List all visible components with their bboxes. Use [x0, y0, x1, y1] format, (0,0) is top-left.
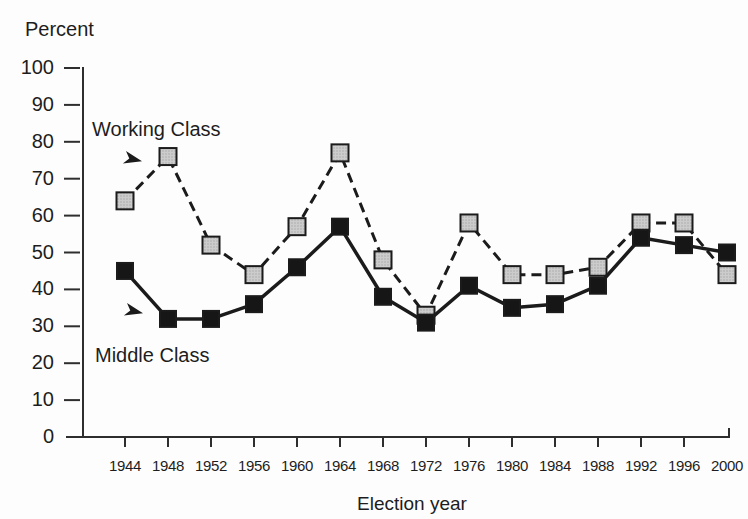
working-class-marker [203, 237, 220, 254]
x-axis-tick-label: 2000 [705, 457, 748, 474]
y-axis-title: Percent [25, 18, 94, 41]
x-axis-tick-label: 1960 [275, 457, 319, 474]
middle-class-arrow-icon [124, 303, 145, 320]
middle-class-marker [590, 278, 606, 294]
working-class-marker [375, 251, 392, 268]
working-class-marker [246, 266, 263, 283]
x-axis-tick-label: 1968 [361, 457, 405, 474]
middle-class-marker [676, 237, 692, 253]
middle-class-marker [246, 296, 262, 312]
x-axis-tick-label: 1952 [189, 457, 233, 474]
working-class-marker [332, 144, 349, 161]
y-axis-tick-label: 20 [4, 351, 54, 374]
y-axis-tick-label: 60 [4, 204, 54, 227]
middle-class-marker [719, 245, 735, 261]
x-axis-tick-label: 1996 [662, 457, 706, 474]
working-class-label: Working Class [92, 118, 221, 141]
y-axis-tick-label: 10 [4, 388, 54, 411]
y-axis-tick-label: 50 [4, 241, 54, 264]
middle-class-marker [160, 311, 176, 327]
y-axis-tick-label: 0 [4, 425, 54, 448]
y-axis-tick-label: 30 [4, 314, 54, 337]
x-axis-tick-label: 1944 [103, 457, 147, 474]
middle-class-marker [461, 278, 477, 294]
y-axis-tick-label: 70 [4, 167, 54, 190]
middle-class-marker [117, 263, 133, 279]
middle-class-marker [418, 315, 434, 331]
middle-class-marker [547, 296, 563, 312]
y-axis-tick-label: 90 [4, 93, 54, 116]
x-axis-tick-label: 1956 [232, 457, 276, 474]
middle-class-label: Middle Class [95, 344, 209, 367]
x-axis-tick-label: 1988 [576, 457, 620, 474]
middle-class-marker [504, 300, 520, 316]
chart-plot [0, 0, 748, 519]
x-axis-tick-label: 1992 [619, 457, 663, 474]
working-class-marker [547, 266, 564, 283]
x-axis-tick-label: 1976 [447, 457, 491, 474]
working-class-marker [504, 266, 521, 283]
working-class-marker [117, 192, 134, 209]
working-class-marker [590, 259, 607, 276]
working-class-marker [719, 266, 736, 283]
y-axis-tick-label: 100 [4, 56, 54, 79]
working-class-marker [461, 214, 478, 231]
x-axis-tick-label: 1948 [146, 457, 190, 474]
middle-class-marker [203, 311, 219, 327]
y-axis-tick-label: 40 [4, 277, 54, 300]
x-axis-title: Election year [312, 493, 512, 515]
middle-class-marker [633, 230, 649, 246]
x-axis-tick-label: 1964 [318, 457, 362, 474]
working-class-marker [160, 148, 177, 165]
working-class-marker [676, 214, 693, 231]
middle-class-marker [332, 219, 348, 235]
middle-class-marker [375, 289, 391, 305]
working-class-marker [289, 218, 306, 235]
x-axis-tick-label: 1980 [490, 457, 534, 474]
y-axis-tick-label: 80 [4, 130, 54, 153]
x-axis-tick-label: 1984 [533, 457, 577, 474]
middle-class-marker [289, 259, 305, 275]
x-axis-line [66, 428, 729, 437]
x-axis-tick-label: 1972 [404, 457, 448, 474]
scanned-line-chart-page: Percent Working Class Middle Class 01020… [0, 0, 748, 519]
working-class-arrow-icon [123, 151, 144, 168]
